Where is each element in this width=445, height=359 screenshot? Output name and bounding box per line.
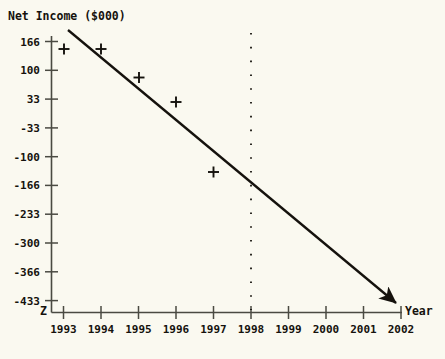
y-tick-label-neg300: -300	[0, 238, 40, 249]
x-tick-label-2002: 2002	[388, 324, 415, 335]
y-tick-label-33: 33	[0, 94, 40, 105]
x-tick-label-1996: 1996	[163, 324, 190, 335]
y-tick-label-neg233: -233	[0, 209, 40, 220]
x-tick-label-1998: 1998	[238, 324, 265, 335]
x-axis-title: Year	[405, 306, 433, 318]
data-point-1993	[59, 44, 70, 55]
x-tick-label-2001: 2001	[350, 324, 377, 335]
y-tick-label-neg366: -366	[0, 266, 40, 277]
x-tick-label-1993: 1993	[50, 324, 77, 335]
x-tick-label-1995: 1995	[125, 324, 152, 335]
chart-screenshot: Net Income ($000) 166 100 33 -33 -100 -1…	[0, 0, 445, 359]
y-tick-label-166: 166	[0, 36, 40, 47]
chart-title: Net Income ($000)	[8, 11, 126, 23]
trend-line	[68, 30, 396, 303]
data-point-1995	[134, 72, 145, 83]
chart-canvas	[0, 0, 445, 359]
data-point-markers	[59, 44, 220, 178]
y-tick-label-neg100: -100	[0, 151, 40, 162]
y-tick-label-100: 100	[0, 65, 40, 76]
x-tick-label-1997: 1997	[200, 324, 227, 335]
x-tick-label-2000: 2000	[313, 324, 340, 335]
data-point-1996	[171, 97, 182, 108]
x-tick-label-1999: 1999	[275, 324, 302, 335]
y-tick-label-neg33: -33	[0, 122, 40, 133]
x-tick-label-1994: 1994	[88, 324, 115, 335]
data-point-1997	[208, 167, 219, 178]
origin-z-label: Z	[40, 306, 47, 318]
y-tick-label-neg433: -433	[0, 295, 40, 306]
y-tick-label-neg166: -166	[0, 180, 40, 191]
